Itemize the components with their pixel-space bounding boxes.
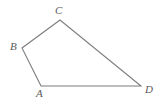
geometry-figure-canvas: A B C D (0, 0, 158, 105)
vertex-label-d: D (145, 84, 153, 95)
quadrilateral-diagram (0, 0, 158, 105)
quadrilateral-abcd-outline (22, 20, 141, 86)
vertex-label-c: C (55, 5, 62, 16)
vertex-label-b: B (10, 41, 17, 52)
vertex-label-a: A (36, 88, 43, 99)
